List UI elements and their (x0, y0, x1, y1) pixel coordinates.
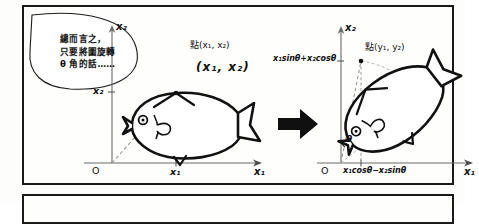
rotated-figure-panel: x₂ x₁ O x₁sinθ+x₂cosθ x₁cosθ−x₂sinθ θ 點(… (309, 7, 479, 187)
speech-bubble-text: 總而言之， 只要將圖旋轉 θ 角的話…… (60, 33, 152, 71)
right-y-tick-label: x₁sinθ+x₂cosθ (273, 55, 336, 63)
left-point-label-printed: 點(x₁, x₂) (190, 41, 230, 50)
left-y-axis-label: x₂ (116, 22, 127, 32)
fish-pectoral-fin (157, 123, 170, 134)
left-x-tick-label: x₁ (170, 167, 180, 177)
left-origin-label: O (92, 166, 99, 176)
left-point-label-hand: (x₁, x₂) (196, 61, 250, 73)
fish-mouth (123, 117, 132, 134)
right-origin-label: O (321, 166, 328, 176)
marked-point (359, 59, 364, 64)
bubble-line-1: 總而言之， (60, 33, 152, 46)
bubble-line-2: 只要將圖旋轉 (60, 46, 152, 59)
figure-frame: 總而言之， 只要將圖旋轉 θ 角的話…… x₂ x₁ O x₂ x₁ 點(x₁,… (22, 5, 454, 185)
theta-angle-label: θ (346, 135, 352, 144)
fish-tail (238, 103, 260, 141)
fish-body (132, 93, 243, 159)
right-panel-graphics (309, 7, 479, 187)
rotated-fish-group (324, 38, 476, 179)
right-x-axis-label: x₁ (464, 167, 475, 177)
left-x-axis-label: x₁ (254, 167, 265, 177)
original-figure-panel: 總而言之， 只要將圖旋轉 θ 角的話…… x₂ x₁ O x₂ x₁ 點(x₁,… (24, 7, 279, 187)
right-y-axis-label: x₂ (345, 23, 356, 33)
right-x-tick-label: x₁cosθ−x₂sinθ (343, 167, 406, 175)
fish-pupil (142, 119, 145, 122)
left-y-tick-label: x₂ (93, 86, 103, 96)
bubble-line-3: θ 角的話…… (60, 58, 152, 71)
right-point-label-printed: 點(y₁, y₂) (365, 43, 405, 52)
marked-point (174, 91, 179, 96)
next-figure-frame (22, 194, 454, 224)
